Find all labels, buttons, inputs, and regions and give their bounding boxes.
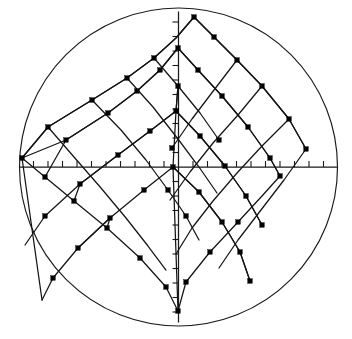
grid-node-marker — [51, 276, 56, 281]
grid-node-marker — [164, 285, 169, 290]
grid-family-u-curve — [42, 167, 173, 300]
grid-family-w-curve — [172, 60, 237, 148]
grid-family-u-curve — [178, 176, 280, 311]
grid-family-w-curve — [22, 158, 42, 300]
grid-family-w-curve — [48, 127, 166, 270]
grid-node-marker — [170, 146, 175, 151]
grid-node-marker — [238, 250, 243, 255]
grid-node-marker — [197, 190, 202, 195]
grid-node-marker — [176, 46, 181, 51]
grid-family-u-curve — [25, 111, 176, 245]
grid-node-marker — [125, 76, 130, 81]
grid-node-marker — [176, 309, 181, 314]
grid-family-w-curve — [170, 86, 262, 200]
grid-family-u-curve — [178, 48, 280, 176]
grid-node-marker — [217, 138, 222, 143]
grid-node-marker — [72, 199, 77, 204]
grid-node-marker — [235, 58, 240, 63]
grid-node-marker — [268, 156, 273, 161]
grid-family-w-curve — [127, 78, 217, 193]
grid-node-marker — [236, 220, 241, 225]
grid-family-v-curve — [22, 17, 194, 158]
grid-node-marker — [198, 134, 203, 139]
grid-node-marker — [166, 188, 171, 193]
grid-node-marker — [171, 165, 176, 170]
grid-node-marker — [138, 256, 143, 261]
plot-canvas — [0, 0, 352, 339]
grid-node-marker — [174, 109, 179, 114]
grid-node-marker — [135, 89, 140, 94]
grid-node-marker — [220, 94, 225, 99]
grid-family-v-curve — [78, 218, 110, 248]
grid-node-marker — [46, 125, 51, 130]
grid-node-marker — [184, 280, 189, 285]
grid-node-marker — [212, 35, 217, 40]
grid-node-marker — [287, 117, 292, 122]
grid-node-marker — [246, 125, 251, 130]
grid-node-marker — [106, 111, 111, 116]
grid-node-marker — [176, 84, 181, 89]
grid-node-marker — [278, 174, 283, 179]
grid-node-marker — [43, 175, 48, 180]
grid-node-marker — [260, 223, 265, 228]
grid-node-marker — [148, 129, 153, 134]
grid-node-marker — [158, 68, 163, 73]
grid-node-marker — [20, 156, 25, 161]
grid-node-marker — [244, 194, 249, 199]
conformal-grid-figure — [0, 0, 352, 339]
grid-node-marker — [248, 279, 253, 284]
grid-node-marker — [260, 84, 265, 89]
grid-node-marker — [192, 15, 197, 20]
grid-node-marker — [78, 182, 83, 187]
grid-family-u-curve — [22, 17, 194, 158]
grid-node-marker — [43, 214, 48, 219]
grid-node-marker — [152, 56, 157, 61]
axes-group — [20, 12, 339, 323]
grid-family-v-curve — [74, 86, 178, 201]
grid-node-marker — [76, 246, 81, 251]
grid-node-marker — [304, 147, 309, 152]
grid-node-marker — [64, 138, 69, 143]
grid-node-marker — [223, 164, 228, 169]
grid-node-marker — [90, 98, 95, 103]
grid-node-marker — [116, 153, 121, 158]
grid-node-marker — [105, 226, 110, 231]
grid-node-marker — [108, 216, 113, 221]
grid-node-marker — [142, 188, 147, 193]
grid-node-marker — [220, 220, 225, 225]
grid-family-v-curve — [178, 48, 280, 176]
grid-family-u-curve — [22, 48, 178, 158]
grid-node-marker — [196, 68, 201, 73]
grid-node-marker — [184, 214, 189, 219]
grid-node-marker — [208, 250, 213, 255]
